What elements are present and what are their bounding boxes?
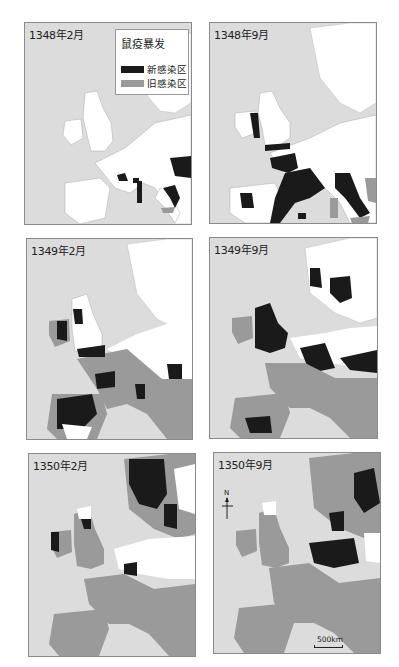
north-arrow-icon: N [222,489,236,519]
map-panel-1349-sep: 1349年9月 [209,237,378,439]
panel-title: 1348年9月 [214,26,269,42]
panel-title: 1349年2月 [31,242,86,258]
old-infection-swatch [121,80,144,87]
panel-title: 1349年9月 [214,241,269,257]
panel-title: 1350年2月 [33,457,88,473]
legend-title: 鼠疫暴发 [121,35,165,51]
europe-map [214,453,380,653]
legend-item-old: 旧感染区 [121,78,187,88]
compass-arrow [222,489,236,519]
legend-item-new: 新感染区 [121,64,187,74]
panel-title: 1350年9月 [218,456,273,472]
europe-map [210,23,376,223]
legend-label-old: 旧感染区 [147,76,187,90]
europe-map [27,239,192,439]
europe-map [210,238,377,438]
map-panel-1350-feb: 1350年2月 [28,453,196,657]
legend-label-new: 新感染区 [147,62,187,76]
new-infection-swatch [121,66,144,73]
scale-bar: 500km [314,635,354,651]
map-panel-1348-feb: 1348年2月 鼠疫暴发 新感染区 旧感染区 [24,22,192,225]
scale-label: 500km [317,635,343,644]
map-panel-1348-sep: 1348年9月 [209,22,377,224]
europe-map [29,454,195,656]
map-panel-1349-feb: 1349年2月 [26,238,193,440]
map-panel-1350-sep: 1350年9月 N 500km [213,452,381,654]
panel-title: 1348年2月 [29,26,84,42]
scale-line [314,645,343,648]
legend: 鼠疫暴发 新感染区 旧感染区 [115,29,189,95]
